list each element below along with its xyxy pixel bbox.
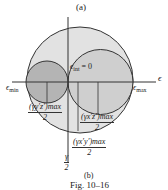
gamma-xy-denominator: 2 [72,148,106,157]
part-b-label: (b) [84,172,93,180]
eps-min-sub: min [9,87,18,93]
eps-int-label: ϵint = 0 [70,63,92,72]
gamma-xz-denominator: 2 [80,123,114,132]
gamma-axis-label: γ 2 [64,153,69,172]
gamma-axis-denominator: 2 [64,163,69,172]
part-a-label: (a) [76,3,86,12]
eps-max-label: ϵmax [133,84,147,93]
mohr-circle-diagram [0,0,168,190]
gamma-yz-numerator: (γy′z′)max [28,103,62,113]
figure-caption: Fig. 10–16 [70,181,109,190]
gamma-yz-denominator: 2 [28,113,62,122]
gamma-xy-numerator: (γx′y′)max [72,138,106,148]
eps-max-sub: max [136,87,146,93]
gamma-xy-max-fraction: (γx′y′)max 2 [72,138,106,157]
epsilon-axis-label: ϵ [158,74,162,83]
eps-int-value: = 0 [80,62,93,71]
gamma-xz-max-fraction: (γx′z′)max 2 [80,113,114,132]
eps-min-label: ϵmin [6,84,19,93]
gamma-yz-max-fraction: (γy′z′)max 2 [28,103,62,122]
gamma-axis-numerator: γ [64,153,69,163]
gamma-xz-numerator: (γx′z′)max [80,113,114,123]
